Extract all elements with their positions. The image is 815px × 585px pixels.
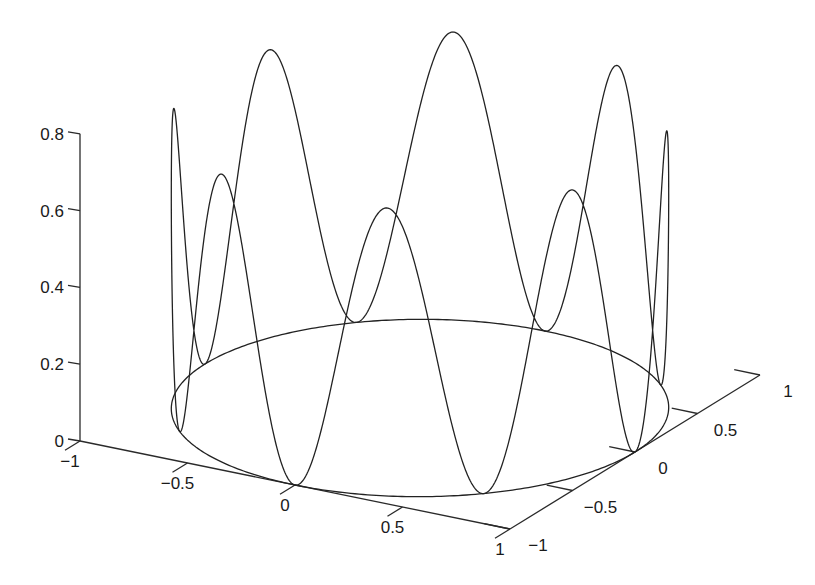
x-tick-label: 0 (280, 496, 289, 515)
x-tick (280, 485, 295, 494)
space-curve (171, 32, 668, 494)
x-tick-label: 0.5 (381, 518, 405, 537)
z-tick (68, 362, 80, 364)
z-tick-label: 0.8 (40, 125, 64, 144)
y-tick-label: −1 (528, 536, 547, 555)
z-tick-label: 0 (55, 432, 64, 451)
tick-labels: −1−0.500.51−1−0.500.5100.20.40.60.8 (40, 125, 792, 559)
x-tick-label: 1 (495, 540, 504, 559)
base-circle (171, 319, 668, 496)
plot-canvas: −1−0.500.51−1−0.500.5100.20.40.60.8 (0, 0, 815, 585)
x-tick (495, 529, 510, 538)
z-tick (68, 209, 80, 211)
y-tick-label: 0 (658, 459, 667, 478)
z-tick-label: 0.2 (40, 355, 64, 374)
y-tick-label: −0.5 (584, 498, 618, 517)
x-tick (388, 507, 403, 516)
z-tick (68, 439, 80, 441)
x-tick (65, 441, 80, 450)
z-tick (68, 285, 80, 287)
x-tick (173, 463, 188, 472)
x-tick-label: −1 (60, 452, 79, 471)
z-tick-label: 0.6 (40, 202, 64, 221)
z-tick (68, 132, 80, 134)
y-tick (672, 408, 698, 413)
y-tick-label: 1 (783, 382, 792, 401)
y-tick (484, 524, 510, 529)
x-tick-label: −0.5 (161, 474, 195, 493)
z-tick-label: 0.4 (40, 278, 64, 297)
y-tick (734, 370, 760, 375)
y-tick-label: 0.5 (714, 421, 738, 440)
y-tick (547, 485, 573, 490)
